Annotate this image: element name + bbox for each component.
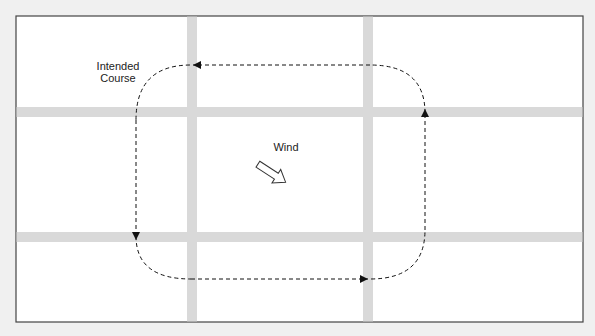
intended-course-label-line1: Intended <box>97 60 140 72</box>
horizontal-road-bottom <box>17 232 583 242</box>
vertical-road-right <box>363 17 373 322</box>
vertical-road-left <box>187 17 197 322</box>
intended-course-label-line2: Course <box>100 72 135 84</box>
course-diagram: Intended Course Wind <box>0 0 595 336</box>
wind-label: Wind <box>273 141 298 153</box>
horizontal-road-top <box>17 107 583 117</box>
